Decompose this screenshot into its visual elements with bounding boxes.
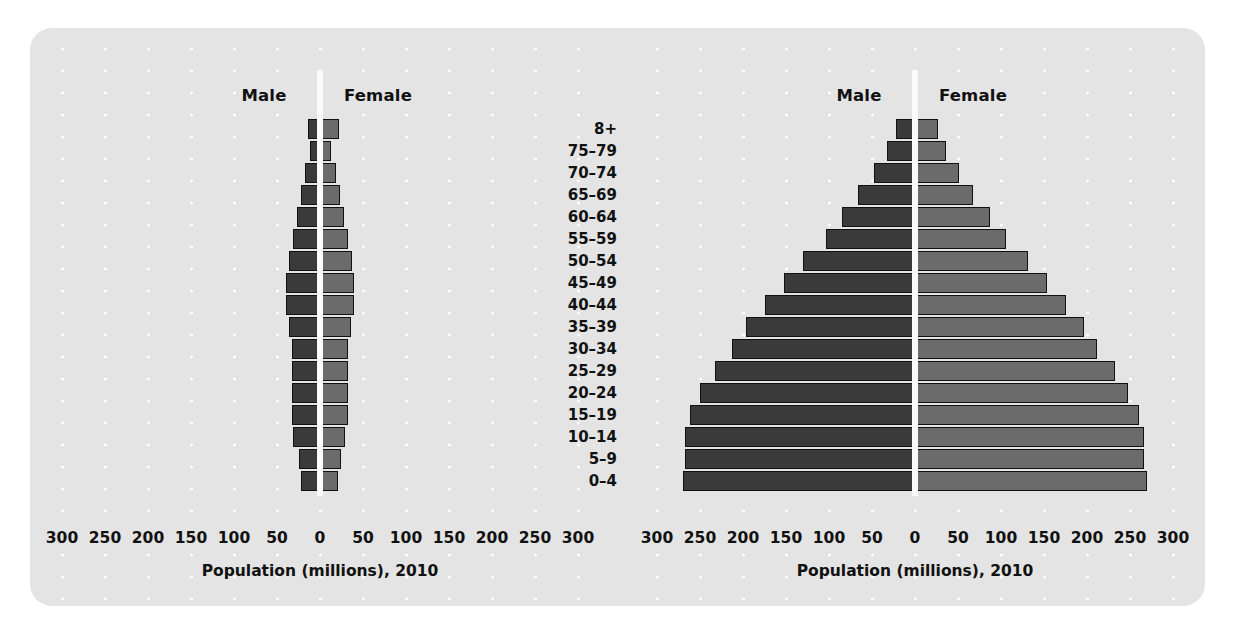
pyramid-row <box>0 250 1235 272</box>
right-x-axis-ticks: 30025020015010050050100150200250300 <box>0 529 1235 549</box>
female-bar <box>915 273 1047 293</box>
female-bar <box>915 185 973 205</box>
female-bar <box>915 361 1115 381</box>
x-tick-label: 100 <box>813 529 845 547</box>
male-bar <box>784 273 915 293</box>
pyramid-row <box>0 404 1235 426</box>
female-bar <box>915 119 938 139</box>
pyramid-row <box>0 228 1235 250</box>
female-bar <box>915 295 1066 315</box>
male-bar <box>858 185 915 205</box>
x-tick-label: 50 <box>947 529 969 547</box>
male-bar <box>685 449 915 469</box>
male-bar <box>874 163 915 183</box>
right-center-axis <box>912 70 918 496</box>
x-tick-label: 150 <box>770 529 802 547</box>
x-tick-label: 250 <box>684 529 716 547</box>
pyramid-row <box>0 140 1235 162</box>
x-tick-label: 200 <box>727 529 759 547</box>
female-bar <box>915 449 1144 469</box>
female-bar <box>915 163 959 183</box>
male-bar <box>700 383 915 403</box>
male-bar <box>887 141 915 161</box>
male-bar <box>683 471 915 491</box>
female-bar <box>915 251 1028 271</box>
x-tick-label: 50 <box>861 529 883 547</box>
pyramid-row <box>0 338 1235 360</box>
pyramid-row <box>0 272 1235 294</box>
male-bar <box>690 405 915 425</box>
pyramid-row <box>0 360 1235 382</box>
female-bar <box>915 471 1147 491</box>
male-bar <box>715 361 915 381</box>
x-tick-label: 300 <box>1157 529 1189 547</box>
female-bar <box>915 229 1006 249</box>
male-bar <box>732 339 915 359</box>
pyramid-row <box>0 206 1235 228</box>
x-tick-label: 200 <box>1071 529 1103 547</box>
pyramid-row <box>0 426 1235 448</box>
male-bar <box>746 317 915 337</box>
x-tick-label: 100 <box>985 529 1017 547</box>
x-tick-label: 250 <box>1114 529 1146 547</box>
pyramid-row <box>0 118 1235 140</box>
x-tick-label: 0 <box>910 529 921 547</box>
female-bar <box>915 383 1128 403</box>
male-bar <box>685 427 915 447</box>
female-bar <box>915 405 1139 425</box>
female-bar <box>915 427 1144 447</box>
pyramid-row <box>0 294 1235 316</box>
right-x-axis-label: Population (millions), 2010 <box>797 562 1034 580</box>
male-bar <box>842 207 915 227</box>
female-bar <box>915 317 1084 337</box>
pyramid-row <box>0 382 1235 404</box>
pyramid-row <box>0 316 1235 338</box>
female-bar <box>915 207 990 227</box>
male-bar <box>826 229 915 249</box>
male-bar <box>765 295 916 315</box>
female-bar <box>915 141 946 161</box>
pyramid-row <box>0 184 1235 206</box>
male-bar <box>803 251 915 271</box>
figure-root: Male Female 3002502001501005005010015020… <box>0 0 1235 637</box>
pyramid-row <box>0 470 1235 492</box>
x-tick-label: 150 <box>1028 529 1060 547</box>
female-bar <box>915 339 1097 359</box>
pyramid-row <box>0 162 1235 184</box>
x-tick-label: 300 <box>641 529 673 547</box>
pyramid-row <box>0 448 1235 470</box>
